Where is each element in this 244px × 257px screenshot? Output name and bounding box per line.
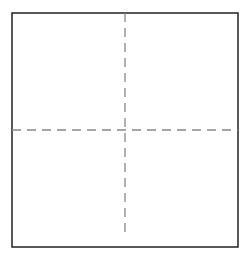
quadrant-diagram <box>0 0 244 257</box>
diagram-svg <box>0 0 244 257</box>
